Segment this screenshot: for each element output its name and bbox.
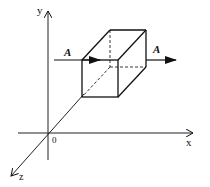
z-axis-label: z	[19, 172, 23, 182]
origin-label: 0	[52, 136, 57, 145]
vector-a-right-label: A	[153, 44, 160, 55]
x-axis-label: x	[186, 137, 192, 148]
y-axis-label: y	[37, 5, 43, 16]
diagram-canvas: y x z 0 A A	[0, 0, 210, 187]
diagram-svg	[0, 0, 210, 187]
vector-a-left-label: A	[64, 47, 71, 58]
axes	[11, 11, 193, 176]
